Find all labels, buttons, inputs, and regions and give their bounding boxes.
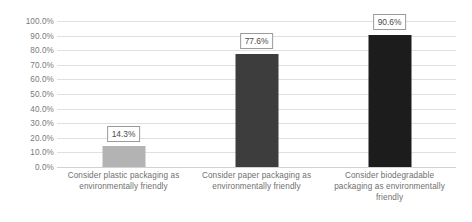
x-axis-category-label-paper: Consider paper packaging as environmenta…	[190, 170, 323, 192]
y-axis-tick-label: 100.0%	[0, 17, 54, 26]
y-axis-tick-label: 80.0%	[0, 46, 54, 55]
data-label-paper: 77.6%	[240, 33, 274, 49]
y-axis-tick-label: 50.0%	[0, 90, 54, 99]
data-label-plastic: 14.3%	[107, 126, 141, 142]
y-axis-tick-label: 30.0%	[0, 119, 54, 128]
bar-slot: 90.6%	[323, 21, 456, 167]
y-axis-tick-label: 10.0%	[0, 148, 54, 157]
x-axis-label-line: Consider plastic packaging as	[57, 170, 190, 181]
y-axis-tick-label: 60.0%	[0, 75, 54, 84]
bar-plastic[interactable]	[102, 146, 145, 167]
bar-slot: 14.3%	[57, 21, 190, 167]
y-axis-tick-label: 70.0%	[0, 60, 54, 69]
x-axis-label-line: Consider paper packaging as	[190, 170, 323, 181]
data-label-biodegradable: 90.6%	[373, 14, 407, 30]
x-axis-category-label-biodegradable: Consider biodegradable packaging as envi…	[323, 170, 456, 203]
x-axis-label-line: Consider biodegradable	[323, 170, 456, 181]
bar-slot: 77.6%	[190, 21, 323, 167]
bar-paper[interactable]	[235, 54, 278, 167]
y-axis-tick-label: 20.0%	[0, 133, 54, 142]
x-axis-category-label-plastic: Consider plastic packaging as environmen…	[57, 170, 190, 192]
y-axis-tick-label: 90.0%	[0, 31, 54, 40]
x-axis: Consider plastic packaging as environmen…	[57, 170, 456, 222]
bars-layer: 14.3% 77.6% 90.6%	[57, 21, 456, 167]
axis-baseline	[57, 167, 456, 168]
x-axis-label-line: friendly	[323, 192, 456, 203]
x-axis-label-line: packaging as environmentally	[323, 181, 456, 192]
y-axis-tick-label: 40.0%	[0, 104, 54, 113]
x-axis-label-line: environmentally friendly	[190, 181, 323, 192]
bar-biodegradable[interactable]	[368, 35, 411, 167]
y-axis-tick-label: 0.0%	[0, 163, 54, 172]
bar-chart: 100.0% 90.0% 80.0% 70.0% 60.0% 50.0% 40.…	[0, 0, 472, 222]
x-axis-label-line: environmentally friendly	[57, 181, 190, 192]
y-axis: 100.0% 90.0% 80.0% 70.0% 60.0% 50.0% 40.…	[0, 0, 54, 222]
